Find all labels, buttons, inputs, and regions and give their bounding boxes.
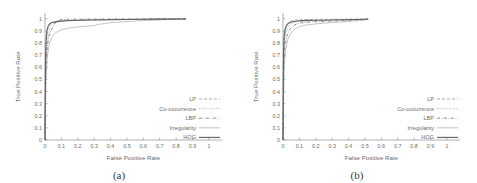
- y-tick-label: 0.6: [273, 64, 281, 70]
- x-tick-label: 0.7: [156, 143, 164, 149]
- x-tick-label: 0.2: [312, 143, 320, 149]
- y-tick-label: 0.4: [35, 89, 43, 95]
- y-axis-title: True Positive Rate: [252, 51, 259, 102]
- curve-hog: [283, 19, 368, 140]
- y-tick-label: 0.9: [273, 28, 281, 34]
- x-tick-label: 0: [44, 143, 47, 149]
- y-tick-label: 0: [277, 137, 280, 143]
- legend-label-hog: HOG: [421, 134, 434, 140]
- y-tick-label: 0.8: [273, 40, 281, 46]
- x-tick-label: 0.6: [378, 143, 386, 149]
- curve-lp: [283, 19, 368, 140]
- curve-lbp: [283, 19, 368, 140]
- y-tick-label: 0.3: [35, 101, 43, 107]
- y-tick-label: 0.7: [35, 52, 43, 58]
- x-tick-label: 0.8: [410, 143, 418, 149]
- panel-a-caption: (a): [0, 169, 238, 181]
- x-tick-label: 0.4: [107, 143, 115, 149]
- roc-chart-b: 00.10.20.30.40.50.60.70.80.9100.10.20.30…: [238, 0, 476, 160]
- y-tick-label: 0.5: [35, 76, 43, 82]
- x-tick-label: 0.7: [394, 143, 402, 149]
- curve-irregularity: [283, 19, 368, 140]
- roc-chart-a: 00.10.20.30.40.50.60.70.80.9100.10.20.30…: [0, 0, 238, 160]
- y-tick-label: 1: [277, 16, 280, 22]
- legend-label-irregularity: Irregularity: [170, 125, 197, 131]
- x-tick-label: 1: [207, 143, 210, 149]
- legend-label-co-occurrence: Co-occurrence: [159, 106, 196, 112]
- y-tick-label: 0.1: [273, 125, 281, 131]
- x-tick-label: 0.3: [90, 143, 98, 149]
- x-tick-label: 0.5: [361, 143, 369, 149]
- y-tick-label: 0.2: [35, 113, 43, 119]
- legend-label-lbp: LBP: [423, 115, 434, 121]
- x-tick-label: 0.1: [58, 143, 66, 149]
- y-tick-label: 0.5: [273, 76, 281, 82]
- legend-label-irregularity: Irregularity: [408, 125, 435, 131]
- y-tick-label: 1: [39, 16, 42, 22]
- y-tick-label: 0.1: [35, 125, 43, 131]
- x-tick-label: 0.3: [328, 143, 336, 149]
- y-tick-label: 0.6: [35, 64, 43, 70]
- x-tick-label: 0.4: [345, 143, 353, 149]
- curve-co-occurrence: [45, 19, 186, 140]
- y-tick-label: 0.2: [273, 113, 281, 119]
- roc-figure: 00.10.20.30.40.50.60.70.80.9100.10.20.30…: [0, 0, 477, 183]
- legend-label-lbp: LBP: [185, 115, 196, 121]
- y-tick-label: 0.9: [35, 28, 43, 34]
- y-tick-label: 0.4: [273, 89, 281, 95]
- x-tick-label: 0.1: [296, 143, 304, 149]
- panel-b: 00.10.20.30.40.50.60.70.80.9100.10.20.30…: [238, 0, 476, 183]
- x-tick-label: 0.5: [123, 143, 131, 149]
- y-tick-label: 0: [39, 137, 42, 143]
- x-tick-label: 0.8: [172, 143, 180, 149]
- curve-lbp: [45, 19, 186, 140]
- legend-label-co-occurrence: Co-occurrence: [397, 106, 434, 112]
- panel-b-caption: (b): [238, 169, 476, 181]
- x-tick-label: 0.2: [74, 143, 82, 149]
- y-tick-label: 0.3: [273, 101, 281, 107]
- x-tick-label: 0.9: [189, 143, 197, 149]
- curve-hog: [45, 19, 186, 140]
- legend-label-lp: LP: [427, 96, 434, 102]
- y-tick-label: 0.8: [35, 40, 43, 46]
- x-tick-label: 1: [445, 143, 448, 149]
- panel-a: 00.10.20.30.40.50.60.70.80.9100.10.20.30…: [0, 0, 238, 183]
- x-tick-label: 0: [282, 143, 285, 149]
- y-tick-label: 0.7: [273, 52, 281, 58]
- x-axis-title: False Positive Rate: [345, 154, 399, 160]
- legend-label-hog: HOG: [183, 134, 196, 140]
- x-tick-label: 0.9: [427, 143, 435, 149]
- curve-lp: [45, 19, 186, 140]
- y-axis-title: True Positive Rate: [14, 51, 21, 102]
- legend-label-lp: LP: [189, 96, 196, 102]
- x-tick-label: 0.6: [140, 143, 148, 149]
- x-axis-title: False Positive Rate: [107, 154, 161, 160]
- curve-irregularity: [45, 19, 186, 140]
- curve-co-occurrence: [283, 19, 368, 140]
